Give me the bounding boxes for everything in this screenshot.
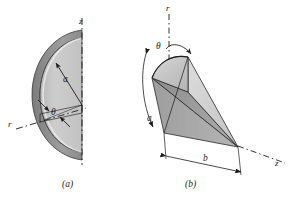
panel-a-theta-label: θ (51, 108, 56, 118)
figure-drawing (0, 0, 289, 201)
panel-a-caption: (a) (62, 180, 73, 190)
panel-b-graphic (143, 14, 285, 175)
panel-b-theta-label: θ (156, 42, 161, 52)
panel-b-extension-left (164, 133, 166, 159)
panel-a-radius-label: a (63, 75, 68, 85)
panel-b-base-label: b (203, 154, 208, 164)
panel-a-z-axis-label: z (79, 17, 83, 26)
panel-b-r-axis-label: r (166, 4, 170, 13)
figure-container: z r a θ (a) r z θ a b (b) (0, 0, 289, 201)
panel-a-r-axis-label: r (8, 120, 12, 129)
panel-a-graphic (16, 18, 86, 165)
panel-b-slant-label: a (147, 114, 152, 124)
panel-b-caption: (b) (185, 180, 196, 190)
panel-b-z-axis-label: z (275, 159, 279, 168)
panel-b-theta-arc (166, 45, 191, 54)
panel-b-extension-right (238, 147, 241, 175)
